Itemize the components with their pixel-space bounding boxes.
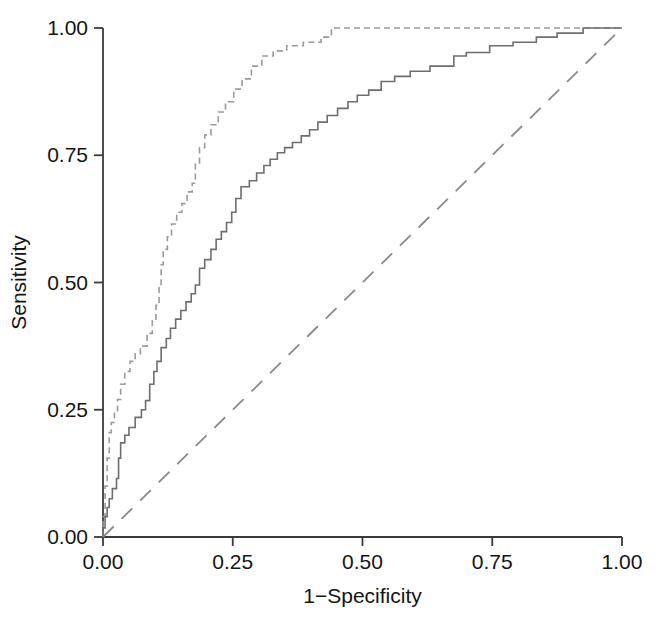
x-tick-label: 0.25: [212, 550, 253, 573]
plot-area: 0.000.250.500.751.000.000.250.500.751.00…: [7, 16, 642, 607]
y-tick-label: 0.00: [47, 525, 88, 548]
x-tick-label: 1.00: [602, 550, 643, 573]
y-tick-label: 0.25: [47, 398, 88, 421]
reference-diagonal: [103, 28, 622, 537]
x-tick-label: 0.50: [342, 550, 383, 573]
x-tick-label: 0.75: [472, 550, 513, 573]
x-tick-label: 0.00: [83, 550, 124, 573]
y-tick-label: 0.75: [47, 143, 88, 166]
x-axis-title: 1−Specificity: [303, 584, 422, 607]
y-tick-label: 1.00: [47, 16, 88, 39]
roc-chart-figure: 0.000.250.500.751.000.000.250.500.751.00…: [0, 0, 661, 617]
y-tick-label: 0.50: [47, 271, 88, 294]
roc-plot-svg: 0.000.250.500.751.000.000.250.500.751.00…: [0, 0, 661, 617]
y-axis-title: Sensitivity: [7, 235, 30, 330]
